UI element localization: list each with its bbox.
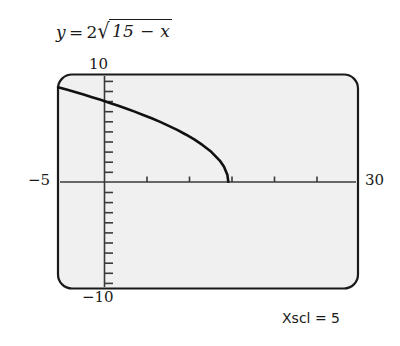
- y-axis-bottom-label: −10: [82, 288, 114, 306]
- y-axis-top-label: 10: [89, 55, 108, 73]
- graphing-calculator-figure: y=2√15 − x: [0, 0, 400, 346]
- xscl-note: Xscl = 5: [282, 310, 340, 326]
- x-axis-left-label: −5: [28, 171, 50, 189]
- calculator-screen: [0, 0, 400, 346]
- x-axis-right-label: 30: [365, 171, 384, 189]
